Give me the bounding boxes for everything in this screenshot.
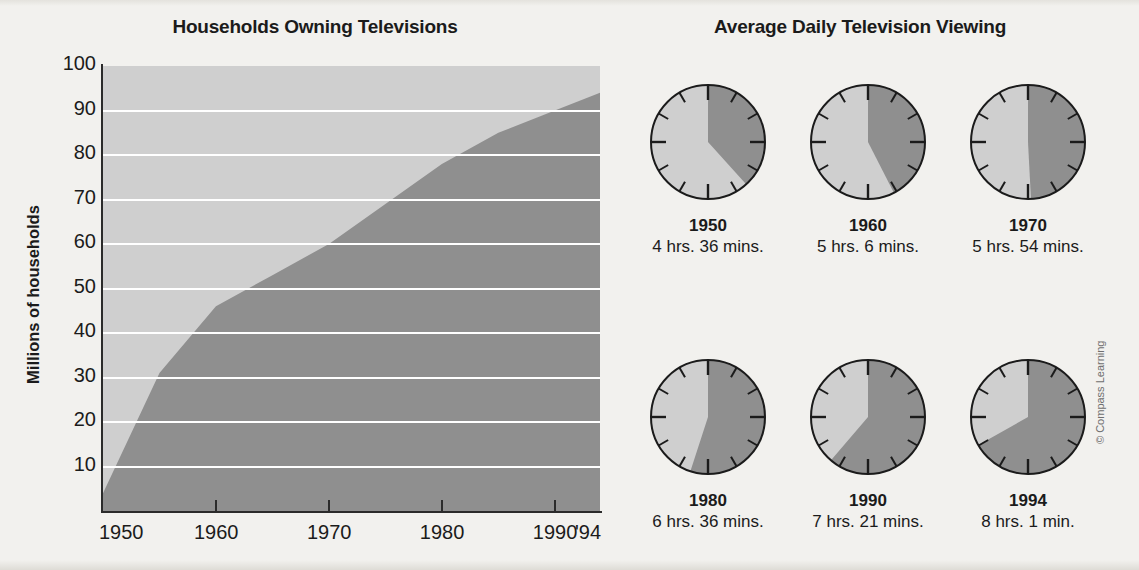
x-axis-line [101,511,602,513]
gridline-80 [103,154,600,156]
gridline-30 [103,377,600,379]
gridline-60 [103,243,600,245]
y-tick-label-60: 60 [40,230,96,253]
clock-cell-1994: 19948 hrs. 1 min. [948,347,1108,532]
infographic-page: Households Owning Televisions Millions o… [0,0,1139,570]
clock-cell-1950: 19504 hrs. 36 mins. [628,72,788,257]
y-tick-label-80: 80 [40,141,96,164]
x-tick-mark-1970 [328,500,330,512]
x-tick-label-1970: 1970 [307,521,352,544]
clock-face-1980 [638,347,778,487]
clock-year-label: 1950 [628,216,788,236]
clock-duration-label: 4 hrs. 36 mins. [628,237,788,257]
viewing-clocks-panel: 19504 hrs. 36 mins.19605 hrs. 6 mins.197… [620,0,1139,570]
gridline-40 [103,332,600,334]
y-tick-label-90: 90 [40,97,96,120]
clock-duration-label: 5 hrs. 54 mins. [948,237,1108,257]
clock-cell-1970: 19705 hrs. 54 mins. [948,72,1108,257]
clock-cell-1990: 19907 hrs. 21 mins. [788,347,948,532]
y-tick-label-30: 30 [40,364,96,387]
x-tick-label-1980: 1980 [420,521,465,544]
x-tick-mark-1960 [215,500,217,512]
gridline-10 [103,466,600,468]
clock-duration-label: 5 hrs. 6 mins. [788,237,948,257]
y-tick-label-70: 70 [40,186,96,209]
clock-year-label: 1994 [948,491,1108,511]
x-tick-label-1994: '94 [575,521,601,544]
clock-face-1994 [958,347,1098,487]
clock-year-label: 1990 [788,491,948,511]
copyright-credit: © Compass Learning [1094,294,1106,444]
households-chart-panel: Households Owning Televisions Millions o… [0,0,620,570]
clock-cell-1960: 19605 hrs. 6 mins. [788,72,948,257]
y-tick-label-40: 40 [40,319,96,342]
clock-duration-label: 6 hrs. 36 mins. [628,512,788,532]
clock-cell-1980: 19806 hrs. 36 mins. [628,347,788,532]
y-tick-label-50: 50 [40,275,96,298]
x-tick-label-1990: 1990 [533,521,578,544]
gridline-90 [103,110,600,112]
x-tick-mark-1990 [554,500,556,512]
clock-year-label: 1970 [948,216,1108,236]
gridline-70 [103,199,600,201]
clock-duration-label: 8 hrs. 1 min. [948,512,1108,532]
clock-face-1960 [798,72,938,212]
clock-year-label: 1980 [628,491,788,511]
clock-face-1950 [638,72,778,212]
clock-face-1990 [798,347,938,487]
clocks-title: Average Daily Television Viewing [630,16,1090,38]
clock-face-1970 [958,72,1098,212]
x-tick-label-1960: 1960 [194,521,239,544]
clock-year-label: 1960 [788,216,948,236]
gridline-20 [103,421,600,423]
chart-title: Households Owning Televisions [30,16,600,38]
y-tick-label-20: 20 [40,408,96,431]
y-axis-tick-labels: 102030405060708090100 [30,0,96,570]
clock-duration-label: 7 hrs. 21 mins. [788,512,948,532]
x-tick-label-1950: 1950 [99,521,144,544]
gridline-50 [103,288,600,290]
y-tick-label-10: 10 [40,453,96,476]
x-tick-mark-1980 [441,500,443,512]
y-axis-line [101,64,103,513]
chart-plot-area [103,66,600,511]
y-tick-label-100: 100 [40,52,96,75]
